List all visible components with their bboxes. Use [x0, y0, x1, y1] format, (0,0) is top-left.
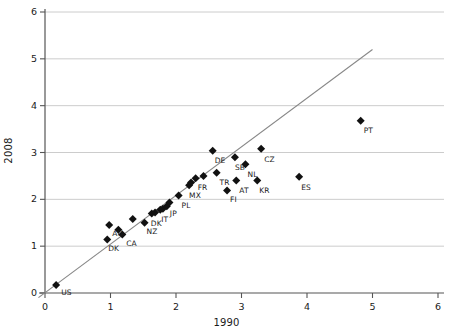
point-label: DK [108, 244, 119, 253]
point-label: TR [220, 178, 230, 187]
y-tick-label: 6 [21, 6, 37, 17]
x-axis-title: 1990 [0, 317, 453, 328]
point-label: FI [230, 195, 237, 204]
y-tick-label: 3 [21, 147, 37, 158]
point-label: PT [364, 126, 373, 135]
y-tick-label: 4 [21, 100, 37, 111]
point-label: AU [112, 229, 123, 238]
plot-area [0, 0, 453, 334]
point-label: KR [259, 186, 269, 195]
scatter-chart: 1990 2008 01234560123456 USDKAUCANZDKITJ… [0, 0, 453, 334]
x-tick-label: 2 [166, 301, 186, 312]
point-label: CA [126, 239, 137, 248]
x-tick-label: 3 [232, 301, 252, 312]
point-label: US [61, 288, 71, 297]
gridlines [45, 12, 444, 246]
y-tick-label: 0 [21, 287, 37, 298]
point-label: PL [182, 201, 191, 210]
point-label: JP [170, 209, 177, 218]
point-label: DK [151, 219, 162, 228]
point-label: CZ [264, 155, 275, 164]
tick-marks [40, 12, 438, 298]
y-tick-label: 2 [21, 193, 37, 204]
x-tick-label: 4 [297, 301, 317, 312]
point-label: MX [189, 191, 201, 200]
point-label: DE [215, 156, 226, 165]
point-label: SB [235, 163, 245, 172]
axis-lines [39, 9, 444, 293]
y-axis-title: 2008 [3, 131, 14, 171]
y-tick-label: 1 [21, 240, 37, 251]
identity-reference-line [38, 49, 372, 297]
point-label: ES [301, 183, 311, 192]
point-label: AT [239, 186, 248, 195]
point-label: IT [161, 215, 168, 224]
x-tick-label: 0 [35, 301, 55, 312]
point-label: FR [198, 183, 208, 192]
x-tick-label: 5 [363, 301, 383, 312]
data-point-markers [52, 117, 365, 289]
x-tick-label: 6 [428, 301, 448, 312]
x-tick-label: 1 [101, 301, 121, 312]
y-tick-label: 5 [21, 53, 37, 64]
point-label: NL [247, 170, 257, 179]
